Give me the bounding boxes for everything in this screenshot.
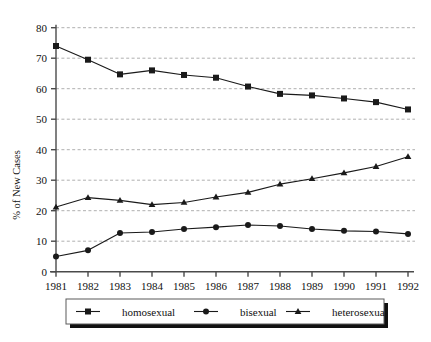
x-tick-label-1984: 1984 (141, 280, 164, 292)
chart-legend: homosexualbisexualheterosexual (66, 299, 388, 328)
data-point-bisexual-1992 (405, 231, 411, 237)
x-tick-label-1986: 1986 (205, 280, 228, 292)
data-point-bisexual-1985 (181, 226, 187, 232)
y-tick-label-50: 50 (36, 113, 48, 125)
x-tick-label-1985: 1985 (173, 280, 196, 292)
data-point-homosexual-1988 (277, 91, 283, 97)
data-point-homosexual-1991 (373, 99, 379, 105)
y-tick-label-10: 10 (36, 235, 48, 247)
data-point-bisexual-1984 (149, 229, 155, 235)
data-point-bisexual-1983 (117, 230, 123, 236)
data-point-homosexual-1986 (213, 75, 219, 81)
y-tick-label-40: 40 (36, 144, 48, 156)
y-axis-title: % of New Cases (11, 150, 22, 220)
y-tick-label-70: 70 (36, 52, 48, 64)
data-point-bisexual-1986 (213, 224, 219, 230)
x-tick-label-1982: 1982 (77, 280, 99, 292)
data-point-homosexual-1987 (245, 84, 251, 90)
y-tick-label-0: 0 (42, 266, 48, 278)
x-tick-label-1988: 1988 (269, 280, 292, 292)
legend-marker-bisexual (203, 309, 209, 315)
x-tick-label-1989: 1989 (301, 280, 324, 292)
data-point-bisexual-1989 (309, 226, 315, 232)
y-tick-label-60: 60 (36, 83, 48, 95)
data-point-bisexual-1987 (245, 222, 251, 228)
x-tick-label-1983: 1983 (109, 280, 132, 292)
line-chart: 01020304050607080 1981198219831984198519… (0, 0, 431, 342)
data-point-homosexual-1983 (117, 71, 123, 77)
y-tick-label-30: 30 (36, 174, 48, 186)
data-point-homosexual-1990 (341, 95, 347, 101)
legend-marker-homosexual (85, 309, 91, 315)
data-point-homosexual-1982 (85, 57, 91, 63)
data-point-homosexual-1989 (309, 92, 315, 98)
legend-label-homosexual: homosexual (122, 306, 175, 318)
x-tick-label-1990: 1990 (333, 280, 356, 292)
chart-container: 01020304050607080 1981198219831984198519… (0, 0, 431, 342)
data-point-bisexual-1981 (53, 253, 59, 259)
data-point-homosexual-1981 (53, 43, 59, 49)
data-point-bisexual-1982 (85, 247, 91, 253)
data-point-homosexual-1992 (405, 106, 411, 112)
y-axis-tick-labels: 01020304050607080 (36, 22, 48, 278)
data-point-bisexual-1988 (277, 223, 283, 229)
x-tick-label-1992: 1992 (397, 280, 419, 292)
data-point-bisexual-1991 (373, 228, 379, 234)
legend-label-heterosexual: heterosexual (332, 306, 388, 318)
data-point-homosexual-1984 (149, 67, 155, 73)
x-tick-label-1987: 1987 (237, 280, 260, 292)
data-point-homosexual-1985 (181, 72, 187, 78)
legend-label-bisexual: bisexual (240, 306, 277, 318)
data-point-bisexual-1990 (341, 228, 347, 234)
y-tick-label-20: 20 (36, 205, 48, 217)
x-tick-label-1991: 1991 (365, 280, 387, 292)
x-tick-label-1981: 1981 (45, 280, 67, 292)
y-tick-label-80: 80 (36, 22, 48, 34)
